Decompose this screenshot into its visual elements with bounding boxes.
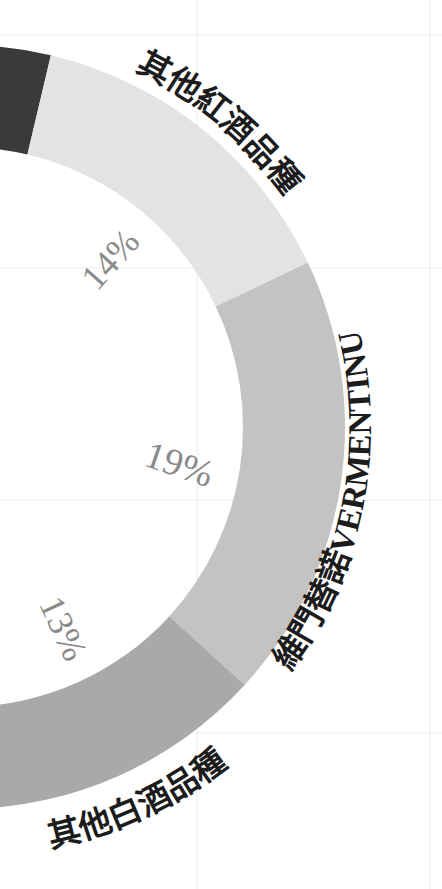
donut-chart: 14% 19% 13% 其他紅酒品種 維門替諾VERMENTINU 其他白酒品種 bbox=[0, 0, 442, 889]
segment-dark-unlabeled[interactable] bbox=[0, 45, 51, 287]
percent-label-other-red: 14% bbox=[73, 222, 147, 298]
percent-label-other-white: 13% bbox=[31, 590, 95, 667]
percent-label-vermentino: 19% bbox=[140, 433, 220, 495]
